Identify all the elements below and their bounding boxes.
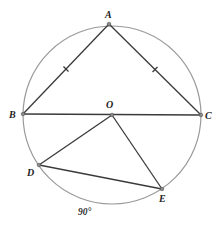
point-b bbox=[21, 112, 25, 116]
segment-od bbox=[39, 115, 112, 165]
point-label-e: E bbox=[158, 193, 166, 204]
arc-measure-label: 90° bbox=[78, 207, 92, 217]
point-label-o: O bbox=[106, 99, 113, 110]
point-a bbox=[107, 22, 111, 26]
geometry-diagram: ABCODE 90° bbox=[0, 0, 223, 227]
labels-group: ABCODE bbox=[8, 9, 212, 204]
annotations-group: 90° bbox=[78, 207, 92, 217]
point-e bbox=[160, 187, 164, 191]
point-label-b: B bbox=[8, 109, 16, 120]
tick-marks-group bbox=[63, 67, 157, 72]
point-o bbox=[110, 113, 114, 117]
point-label-d: D bbox=[26, 167, 34, 178]
diagram-canvas: ABCODE 90° bbox=[0, 0, 223, 227]
point-d bbox=[37, 163, 41, 167]
point-label-c: C bbox=[205, 110, 212, 121]
point-label-a: A bbox=[104, 9, 112, 20]
segment-oe bbox=[112, 115, 162, 189]
point-c bbox=[199, 113, 203, 117]
